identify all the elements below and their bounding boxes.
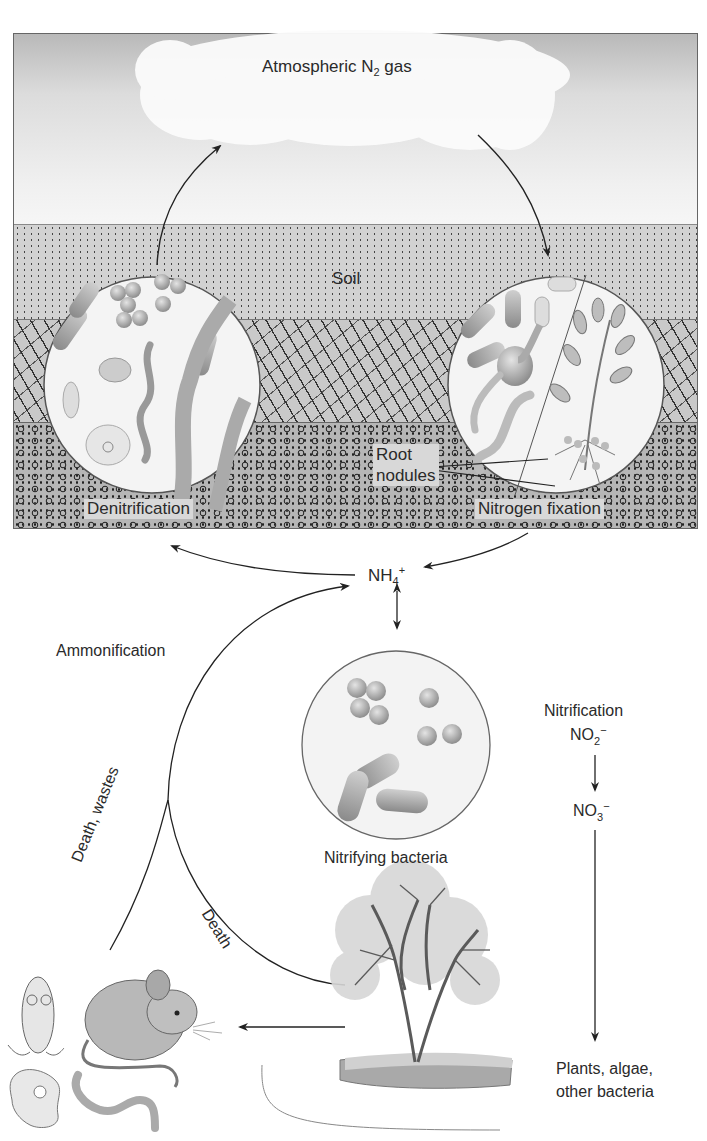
cloud-shape	[135, 30, 570, 150]
flagellate-illustration	[8, 977, 64, 1055]
nitrifying-bacteria-circle	[302, 651, 490, 839]
nitrate-label: NO3−	[573, 800, 610, 823]
arrow-ammonium-to-denitrification	[172, 546, 355, 575]
arrow-denitrification-to-atmosphere	[157, 146, 220, 265]
mouse-illustration	[83, 970, 222, 1087]
worm-illustration	[76, 1075, 155, 1128]
ammonium-label: NH4+	[368, 564, 405, 587]
nitrogen-fixation-circle	[448, 275, 664, 495]
nitrification-label: Nitrification	[544, 702, 623, 720]
plants-label: Plants, algae, other bacteria	[556, 1057, 654, 1103]
soil-label: Soil	[329, 269, 363, 289]
denitrification-label: Denitrification	[84, 499, 193, 519]
nitrite-label: NO2−	[570, 724, 607, 747]
tree-illustration	[262, 860, 512, 1130]
arrow-fixation-to-ammonium	[425, 533, 528, 567]
diagram-graphics	[0, 0, 707, 1141]
arrow-atmosphere-to-fixation	[478, 135, 548, 255]
atmosphere-label: Atmospheric N2 gas	[262, 57, 412, 78]
root-nodules-label: Root nodules	[373, 444, 439, 486]
line-death-from-tree	[168, 800, 345, 985]
denitrification-circle	[44, 274, 260, 510]
ammonification-label: Ammonification	[56, 642, 165, 660]
amoeba-illustration	[10, 1070, 59, 1128]
nitrogen-fixation-label: Nitrogen fixation	[475, 499, 604, 519]
nitrifying-bacteria-label: Nitrifying bacteria	[324, 849, 448, 867]
